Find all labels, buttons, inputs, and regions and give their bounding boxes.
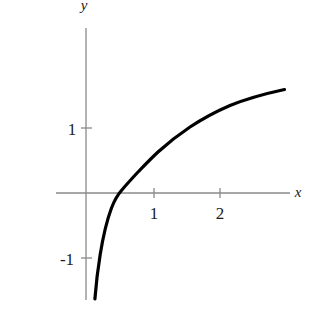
y-tick-label-minus-1: -1	[60, 250, 74, 269]
y-axis-label: y	[79, 0, 88, 13]
log-curve-figure: x y 1 2 1 -1	[0, 0, 318, 309]
log-curve	[95, 90, 285, 300]
x-axis-label: x	[294, 184, 302, 200]
plot-canvas: x y 1 2 1 -1	[0, 0, 318, 309]
x-tick-label-1: 1	[150, 204, 159, 223]
x-tick-label-2: 2	[216, 204, 225, 223]
y-tick-label-1: 1	[68, 120, 77, 139]
